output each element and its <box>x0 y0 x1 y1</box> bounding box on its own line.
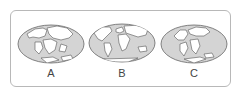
map-b-label: B <box>112 67 132 79</box>
map-c-label: C <box>184 67 204 79</box>
map-a-label: A <box>41 67 61 79</box>
map-b-icon <box>88 23 156 63</box>
map-c-icon <box>160 24 228 64</box>
map-a-icon <box>17 24 85 64</box>
